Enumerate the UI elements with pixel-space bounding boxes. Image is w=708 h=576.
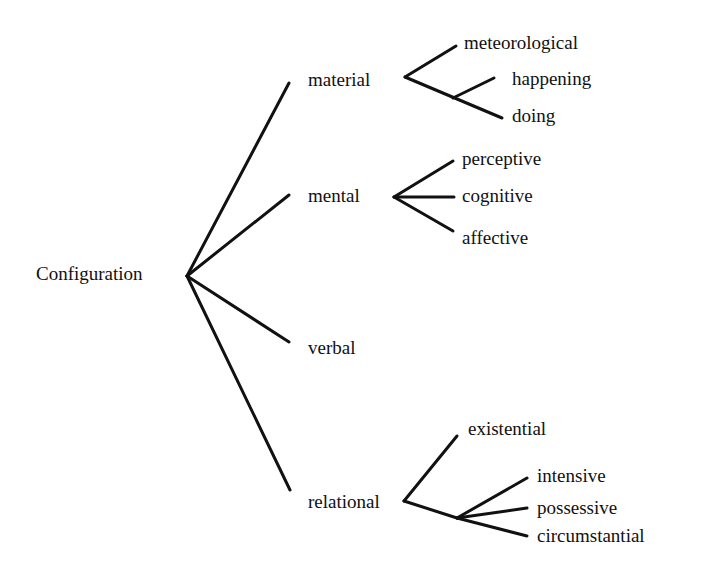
- leaf-doing: doing: [512, 106, 555, 125]
- leaf-meteorological: meteorological: [464, 33, 578, 52]
- node-verbal: verbal: [308, 338, 355, 357]
- leaf-affective: affective: [462, 228, 528, 247]
- leaf-existential: existential: [468, 419, 546, 438]
- edge-split-happening: [453, 78, 494, 98]
- leaf-perceptive: perceptive: [462, 149, 541, 168]
- leaf-circumstantial: circumstantial: [537, 526, 645, 545]
- edge-relational-split: [404, 501, 457, 518]
- leaf-intensive: intensive: [537, 466, 606, 485]
- node-relational: relational: [308, 492, 380, 511]
- configuration-tree-diagram: Configuration material meteorological ha…: [0, 0, 708, 576]
- node-mental: mental: [308, 186, 360, 205]
- edge-root-mental: [187, 195, 289, 276]
- leaf-happening: happening: [512, 69, 591, 88]
- leaf-possessive: possessive: [537, 498, 617, 517]
- leaf-cognitive: cognitive: [462, 186, 533, 205]
- node-material: material: [308, 70, 370, 89]
- edge-mental-affective: [394, 197, 453, 231]
- edge-material-meteorological: [405, 46, 456, 77]
- root-label: Configuration: [36, 264, 143, 283]
- edge-root-material: [187, 83, 289, 276]
- edge-mental-perceptive: [394, 161, 453, 197]
- edge-split-circumstantial: [457, 518, 527, 536]
- edge-relational-existential: [404, 436, 457, 501]
